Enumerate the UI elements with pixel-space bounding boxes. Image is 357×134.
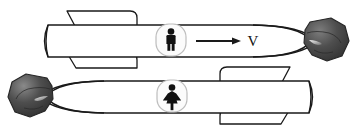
rocket-upper-occupant-panel	[156, 24, 186, 56]
velocity-label: V	[248, 33, 259, 49]
rockets-diagram: V	[0, 0, 357, 134]
canvas-background	[0, 0, 357, 134]
rocket-lower-occupant-panel	[157, 80, 187, 112]
diagram-canvas: V	[0, 0, 357, 134]
